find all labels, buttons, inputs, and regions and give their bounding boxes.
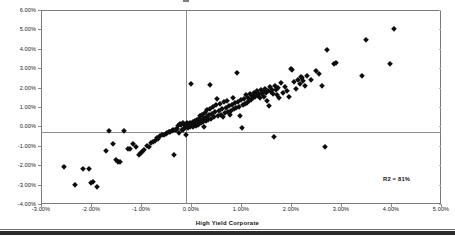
y-tick-mark-inner bbox=[439, 165, 441, 166]
scatter-chart-figure: 6.00%5.00%4.00%3.00%2.00%1.00%0.00%-1.00… bbox=[0, 0, 455, 239]
y-tick-mark bbox=[38, 185, 41, 186]
y-tick-mark-inner bbox=[439, 146, 441, 147]
y-tick-mark-inner bbox=[439, 185, 441, 186]
y-tick-mark bbox=[38, 10, 41, 11]
y-tick-label: 2.00% bbox=[0, 85, 36, 91]
x-tick-label: 4.00% bbox=[369, 206, 413, 212]
y-tick-label: -1.00% bbox=[0, 143, 36, 149]
y-tick-mark bbox=[38, 49, 41, 50]
y-tick-mark bbox=[38, 107, 41, 108]
x-axis-title: High Yield Corporate bbox=[0, 220, 455, 226]
top-cutoff-artifact bbox=[183, 0, 189, 2]
y-tick-mark-inner bbox=[439, 88, 441, 89]
y-tick-mark-inner bbox=[439, 68, 441, 69]
y-tick-mark bbox=[38, 88, 41, 89]
x-tick-label: 0.00% bbox=[169, 206, 213, 212]
x-tick-label: 1.00% bbox=[219, 206, 263, 212]
y-tick-mark bbox=[38, 165, 41, 166]
y-tick-mark bbox=[38, 29, 41, 30]
y-tick-label: 5.00% bbox=[0, 26, 36, 32]
y-tick-label: -3.00% bbox=[0, 182, 36, 188]
y-tick-mark bbox=[38, 68, 41, 69]
y-tick-mark-inner bbox=[439, 29, 441, 30]
y-tick-label: 3.00% bbox=[0, 65, 36, 71]
y-tick-mark-inner bbox=[439, 107, 441, 108]
r-squared-annotation: R2 = 81% bbox=[383, 176, 410, 182]
y-tick-mark-inner bbox=[439, 49, 441, 50]
y-tick-mark bbox=[38, 146, 41, 147]
zero-line-vertical bbox=[186, 10, 187, 204]
x-tick-label: -1.00% bbox=[119, 206, 163, 212]
y-tick-mark-inner bbox=[439, 10, 441, 11]
x-tick-label: 3.00% bbox=[319, 206, 363, 212]
y-tick-mark-inner bbox=[439, 126, 441, 127]
y-tick-label: 4.00% bbox=[0, 46, 36, 52]
x-tick-label: -3.00% bbox=[19, 206, 63, 212]
y-tick-label: -2.00% bbox=[0, 162, 36, 168]
bottom-rule bbox=[0, 231, 455, 235]
bottom-rule-thin bbox=[0, 229, 455, 230]
x-tick-label: 5.00% bbox=[419, 206, 455, 212]
y-tick-label: 1.00% bbox=[0, 104, 36, 110]
y-tick-mark bbox=[38, 126, 41, 127]
x-tick-label: 2.00% bbox=[269, 206, 313, 212]
x-tick-label: -2.00% bbox=[69, 206, 113, 212]
zero-line-horizontal bbox=[41, 132, 441, 133]
y-tick-label: 0.00% bbox=[0, 123, 36, 129]
y-tick-label: 6.00% bbox=[0, 7, 36, 13]
